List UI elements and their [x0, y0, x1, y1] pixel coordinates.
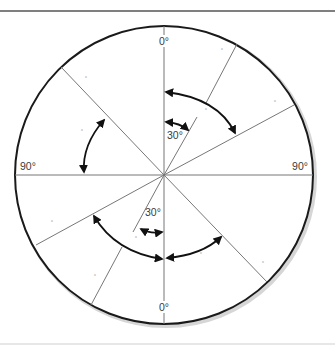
label-left-90-deg: 90°: [20, 160, 36, 172]
sector-diagram: °°°°°°°°°° 0° 0° 90° 90° 30° 30°: [0, 0, 335, 346]
label-right-90-deg: 90°: [292, 160, 308, 172]
label-bottom-0-deg: 0°: [159, 301, 169, 313]
label-inner-lower-30-deg: 30°: [145, 206, 161, 218]
label-top-0-deg: 0°: [159, 35, 169, 47]
label-inner-upper-30-deg: 30°: [167, 129, 183, 141]
